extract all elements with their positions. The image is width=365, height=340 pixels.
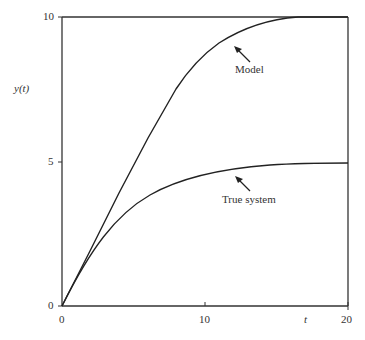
xtick-label-0: 0 xyxy=(59,313,65,325)
true-system-curve xyxy=(62,163,348,306)
model-annotation: Model xyxy=(235,63,264,75)
true-system-annotation: True system xyxy=(222,193,276,205)
y-axis-label: y(t) xyxy=(14,82,29,94)
xtick-label-20: 20 xyxy=(341,313,352,325)
ytick-label-0: 0 xyxy=(48,299,54,311)
model-curve xyxy=(62,17,348,306)
model-arrow xyxy=(234,46,250,62)
plot-area xyxy=(0,0,365,340)
true-system-arrow xyxy=(235,176,250,191)
ytick-label-5: 5 xyxy=(48,155,54,167)
xtick-label-10: 10 xyxy=(199,313,210,325)
x-axis-label: t xyxy=(304,313,307,325)
ytick-label-10: 10 xyxy=(43,10,54,22)
